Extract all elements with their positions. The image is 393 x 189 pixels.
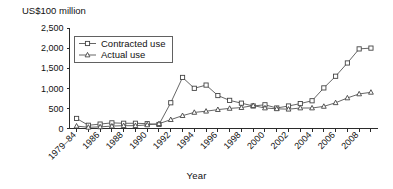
data-point-marker	[216, 93, 220, 97]
x-axis-title: Year	[0, 170, 393, 181]
chart-container: US$100 million 05001,0001,5002,0002,500 …	[0, 0, 393, 189]
x-tick-label: 1986	[80, 130, 101, 151]
x-tick-label: 1996	[198, 130, 219, 151]
data-point-marker	[192, 86, 196, 90]
data-point-marker	[345, 61, 349, 65]
chart-plot-area: 05001,0001,5002,0002,500 1979–8419861988…	[0, 0, 393, 189]
x-tick-label: 1994	[174, 130, 195, 151]
x-tick-label: 1979–84	[46, 130, 78, 162]
data-point-marker	[321, 104, 326, 108]
chart-legend: Contracted useActual use	[74, 36, 172, 62]
data-point-marker	[345, 95, 350, 99]
x-tick-label: 1992	[151, 130, 172, 151]
data-point-marker	[333, 100, 338, 104]
data-point-marker	[168, 117, 173, 121]
data-point-marker	[204, 109, 209, 113]
x-tick-label: 2008	[339, 130, 360, 151]
y-tick-label: 1,500	[41, 63, 64, 73]
data-point-marker	[369, 90, 374, 94]
data-point-marker	[169, 101, 173, 105]
data-point-marker	[322, 86, 326, 90]
legend-label: Contracted use	[101, 38, 165, 49]
x-tick-label: 2004	[292, 130, 313, 151]
x-tick-label: 2006	[316, 130, 337, 151]
data-point-marker	[334, 74, 338, 78]
data-point-marker	[310, 99, 314, 103]
data-point-marker	[228, 98, 232, 102]
data-point-marker	[357, 91, 362, 95]
y-tick-label: 500	[48, 104, 63, 114]
data-point-marker	[180, 75, 184, 79]
legend-marker	[85, 41, 89, 45]
x-tick-label: 2002	[269, 130, 290, 151]
y-axis-ticks: 05001,0001,5002,0002,500	[41, 23, 70, 134]
y-tick-label: 0	[58, 124, 63, 134]
data-point-marker	[369, 46, 373, 50]
data-point-marker	[204, 83, 208, 87]
y-tick-label: 2,000	[41, 43, 64, 53]
y-tick-label: 1,000	[41, 84, 64, 94]
data-point-marker	[74, 116, 78, 120]
x-axis-ticks: 1979–84198619881990199219941996199820002…	[46, 129, 371, 162]
data-point-marker	[180, 113, 185, 117]
data-point-marker	[74, 123, 79, 127]
data-point-marker	[215, 107, 220, 111]
y-tick-label: 2,500	[41, 23, 64, 33]
data-point-marker	[357, 47, 361, 51]
x-tick-label: 1988	[104, 130, 125, 151]
data-point-marker	[227, 106, 232, 110]
x-tick-label: 1998	[222, 130, 243, 151]
x-tick-label: 2000	[245, 130, 266, 151]
x-tick-label: 1990	[127, 130, 148, 151]
legend-label: Actual use	[101, 49, 145, 60]
data-point-marker	[310, 105, 315, 109]
data-point-marker	[192, 110, 197, 114]
